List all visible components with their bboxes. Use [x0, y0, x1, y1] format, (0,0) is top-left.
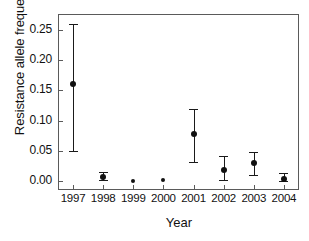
- x-tick-mark: [254, 185, 255, 190]
- data-point-marker: [100, 174, 106, 180]
- error-bar-cap-top: [249, 152, 258, 153]
- error-bar-cap-bottom: [219, 180, 228, 181]
- x-tick-mark: [133, 185, 134, 190]
- x-tick-mark: [103, 185, 104, 190]
- y-tick-mark: [58, 121, 63, 122]
- y-tick-label: 0.15: [0, 82, 52, 96]
- chart-figure: Resistance allele frequency Year 0.000.0…: [0, 0, 309, 241]
- plot-area: [58, 14, 299, 190]
- data-point-marker: [221, 167, 227, 173]
- error-bar-cap-top: [69, 24, 78, 25]
- x-tick-mark: [163, 185, 164, 190]
- data-point-marker: [251, 160, 257, 166]
- y-tick-mark: [58, 151, 63, 152]
- error-bar-cap-top: [219, 156, 228, 157]
- y-tick-mark: [58, 60, 63, 61]
- x-tick-mark: [284, 185, 285, 190]
- x-tick-mark: [194, 185, 195, 190]
- y-tick-label: 0.25: [0, 22, 52, 36]
- error-bar-cap-bottom: [249, 175, 258, 176]
- error-bar-cap-top: [99, 172, 108, 173]
- y-tick-mark: [58, 181, 63, 182]
- y-tick-label: 0.10: [0, 113, 52, 127]
- y-tick-mark: [58, 90, 63, 91]
- x-tick-label: 2004: [263, 192, 305, 204]
- error-bar-cap-bottom: [99, 180, 108, 181]
- y-tick-mark: [58, 30, 63, 31]
- y-tick-label: 0.05: [0, 143, 52, 157]
- error-bar-cap-bottom: [69, 151, 78, 152]
- y-tick-label: 0.20: [0, 52, 52, 66]
- x-tick-mark: [73, 185, 74, 190]
- error-bar-line: [73, 24, 74, 151]
- x-tick-mark: [224, 185, 225, 190]
- error-bar-cap-bottom: [189, 162, 198, 163]
- error-bar-cap-top: [189, 109, 198, 110]
- y-tick-label: 0.00: [0, 173, 52, 187]
- x-axis-title: Year: [58, 215, 300, 230]
- error-bar-cap-top: [279, 173, 288, 174]
